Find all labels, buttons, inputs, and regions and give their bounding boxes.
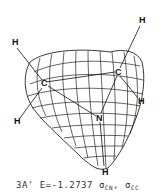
atom-label-h4: H (138, 96, 145, 106)
atom-label-h5: H (102, 167, 109, 177)
orbital-2: σCC (125, 180, 139, 190)
atom-label-h1: H (12, 37, 19, 47)
atom-label-h3: H (139, 15, 146, 25)
atom-label-n: N (96, 113, 103, 123)
orbital-surface (25, 50, 144, 169)
atom-label-h2: H (14, 116, 21, 126)
energy-value: E=-1.2737 (40, 180, 93, 190)
bonds (17, 26, 140, 166)
atom-label-c1: C (41, 78, 48, 88)
atom-labels: H C H H C H N H (12, 15, 146, 177)
atom-label-c2: C (115, 67, 122, 77)
orbital-1: σCN (99, 180, 113, 190)
state-label: 3A' (16, 180, 34, 190)
figure-caption: 3A' E=-1.2737 σCN, σCC (16, 180, 166, 191)
orbital-surface-diagram: H C H H C H N H (0, 0, 166, 196)
